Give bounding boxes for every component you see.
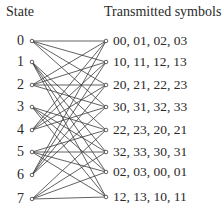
next-state-node (104, 195, 108, 199)
symbol-label-7: 12, 13, 10, 11 (113, 190, 187, 204)
next-state-node (104, 150, 108, 154)
state-label-3: 3 (17, 100, 24, 114)
symbol-label-1: 10, 11, 12, 13 (113, 55, 187, 69)
next-state-node (104, 128, 108, 132)
next-state-node (104, 60, 108, 64)
symbol-label-4: 22, 23, 20, 21 (113, 123, 187, 137)
state-node (30, 105, 34, 109)
state-node (30, 197, 34, 201)
state-label-5: 5 (17, 145, 24, 159)
next-state-node (104, 39, 108, 43)
symbol-label-3: 30, 31, 32, 33 (113, 100, 187, 114)
next-state-node (104, 83, 108, 87)
state-node (30, 39, 34, 43)
transition-line (32, 85, 106, 175)
transition-line (32, 172, 106, 199)
trellis-diagram (0, 0, 222, 218)
state-node (30, 150, 34, 154)
state-node (30, 128, 34, 132)
state-label-2: 2 (17, 78, 24, 92)
transition-line (32, 62, 106, 85)
transition-line (32, 197, 106, 199)
transition-line (32, 62, 106, 152)
state-node (30, 83, 34, 87)
symbol-label-5: 32, 33, 30, 31 (113, 145, 187, 159)
next-state-node (104, 105, 108, 109)
state-label-7: 7 (17, 192, 24, 206)
symbol-label-2: 20, 21, 22, 23 (113, 78, 187, 92)
state-label-4: 4 (17, 123, 24, 137)
symbol-label-0: 00, 01, 02, 03 (113, 34, 187, 48)
state-node (30, 60, 34, 64)
next-state-node (104, 170, 108, 174)
state-label-0: 0 (17, 34, 24, 48)
state-node (30, 173, 34, 177)
transition-line (32, 41, 106, 107)
state-label-1: 1 (17, 55, 24, 69)
symbol-label-6: 02, 03, 00, 01 (113, 165, 187, 179)
transition-line (32, 41, 106, 62)
state-label-6: 6 (17, 168, 24, 182)
